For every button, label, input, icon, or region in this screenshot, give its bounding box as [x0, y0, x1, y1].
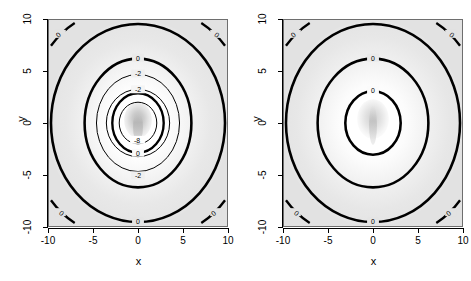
x-tick-label: -5: [78, 235, 108, 247]
x-tick-label: 5: [403, 235, 433, 247]
x-tick: [283, 229, 284, 233]
x-axis-label-right: x: [283, 255, 464, 267]
y-tick: [278, 123, 282, 124]
x-tick: [373, 229, 374, 233]
contour-label: -8: [134, 137, 140, 144]
y-tick: [43, 123, 47, 124]
contour-canvas-right: 0 0 0 0 0 0 0: [284, 20, 462, 226]
x-tick-label: -10: [33, 235, 63, 247]
y-tick: [43, 175, 47, 176]
contour-label: 0: [136, 55, 140, 62]
contour-figure: 0 -2 -2 -8 0 -2 0: [0, 0, 471, 281]
y-tick-label: 10: [22, 4, 34, 34]
contour-label: -2: [135, 70, 141, 77]
y-tick: [43, 19, 47, 20]
x-tick-label: 0: [358, 235, 388, 247]
y-tick-label: -10: [257, 212, 269, 242]
y-tick: [43, 227, 47, 228]
contour-label: -2: [135, 172, 141, 179]
x-tick: [183, 229, 184, 233]
contour-label: 0: [371, 55, 375, 62]
x-tick: [93, 229, 94, 233]
y-tick-label: 10: [257, 4, 269, 34]
panel-left: 0 -2 -2 -8 0 -2 0: [0, 0, 235, 281]
x-tick-label: -5: [313, 235, 343, 247]
y-tick: [278, 227, 282, 228]
y-axis-label-left: y: [15, 104, 27, 134]
x-tick-label: -10: [268, 235, 298, 247]
plot-region-right: 0 0 0 0 0 0 0: [283, 19, 463, 227]
y-tick-label: -10: [22, 212, 34, 242]
plot-region-left: 0 -2 -2 -8 0 -2 0: [48, 19, 228, 227]
y-tick: [278, 175, 282, 176]
panel-right: 0 0 0 0 0 0 0: [236, 0, 471, 281]
contour-label: -2: [135, 86, 141, 93]
x-tick: [328, 229, 329, 233]
x-tick-label: 10: [448, 235, 471, 247]
x-tick-label: 5: [168, 235, 198, 247]
y-tick-label: 5: [257, 56, 269, 86]
y-tick: [278, 19, 282, 20]
x-tick: [418, 229, 419, 233]
y-tick: [43, 71, 47, 72]
x-tick: [463, 229, 464, 233]
y-axis-label-right: y: [250, 104, 262, 134]
y-tick-label: -5: [257, 160, 269, 190]
y-axis-line-right: [282, 19, 283, 228]
y-axis-line-left: [47, 19, 48, 228]
y-tick: [278, 71, 282, 72]
y-tick-label: 5: [22, 56, 34, 86]
x-tick-label: 0: [123, 235, 153, 247]
y-tick-label: -5: [22, 160, 34, 190]
contour-canvas-left: 0 -2 -2 -8 0 -2 0: [49, 20, 227, 226]
contour-label: 0: [371, 218, 375, 225]
x-tick: [48, 229, 49, 233]
contour-label: 0: [136, 218, 140, 225]
contour-label: 0: [371, 87, 375, 94]
x-axis-label-left: x: [48, 255, 229, 267]
contour-label: 0: [136, 150, 140, 157]
x-tick: [228, 229, 229, 233]
x-tick: [138, 229, 139, 233]
